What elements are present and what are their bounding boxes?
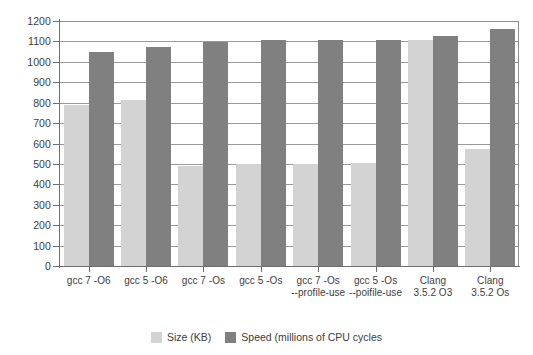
bar-speed [433,36,458,266]
y-axis-line [59,19,60,268]
bar-size [293,164,318,266]
bar-speed [203,42,228,266]
y-tick-label: 300 [3,200,51,210]
bar-group [465,21,515,266]
bar-group [178,21,228,266]
bar-group [236,21,286,266]
bar-group [408,21,458,266]
bar-group [293,21,343,266]
y-tick-label: 400 [3,179,51,189]
y-tick-label: 0 [3,261,51,271]
y-tick-label: 800 [3,98,51,108]
x-tick-mark [490,266,491,272]
chart-legend: Size (KB)Speed (millions of CPU cycles [0,331,533,343]
bar-group [351,21,401,266]
bar-size [178,166,203,266]
y-tick-label: 900 [3,77,51,87]
bar-size [351,163,376,266]
category-label: Clang3.5.2 Os [456,275,525,298]
bar-size [64,105,89,266]
plot-area [60,21,519,266]
x-axis-line [59,266,520,267]
x-tick-mark [261,266,262,272]
y-tick-label: 500 [3,159,51,169]
legend-item[interactable]: Speed (millions of CPU cycles [225,331,382,343]
x-tick-mark [146,266,147,272]
x-tick-mark [203,266,204,272]
x-tick-mark [318,266,319,272]
bar-speed [376,40,401,266]
bar-chart: 0100200300400500600700800900100011001200… [0,0,533,355]
legend-swatch-icon [225,332,236,343]
bar-group [64,21,114,266]
bar-speed [261,40,286,266]
y-tick-label: 700 [3,118,51,128]
bar-size [236,164,261,266]
legend-label: Size (KB) [167,331,211,343]
bar-size [408,40,433,266]
legend-item[interactable]: Size (KB) [151,331,211,343]
legend-label: Speed (millions of CPU cycles [241,331,382,343]
bar-speed [318,40,343,266]
category-label-line: Clang [456,275,525,287]
y-tick-label: 1100 [3,36,51,46]
bar-size [121,100,146,266]
x-tick-mark [376,266,377,272]
legend-swatch-icon [151,332,162,343]
y-tick-label: 100 [3,241,51,251]
bar-speed [490,29,515,266]
bar-group [121,21,171,266]
bar-speed [146,47,171,266]
x-tick-mark [433,266,434,272]
bar-size [465,149,490,266]
bar-speed [89,52,114,266]
y-tick-label: 1000 [3,57,51,67]
y-tick-label: 600 [3,139,51,149]
y-tick-label: 200 [3,220,51,230]
category-label-line: 3.5.2 Os [456,287,525,299]
x-tick-mark [89,266,90,272]
y-tick-label: 1200 [3,16,51,26]
